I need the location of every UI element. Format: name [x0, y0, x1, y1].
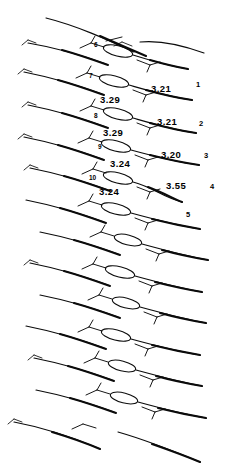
molecule-row: [26, 320, 200, 356]
molecule-index-label: 2: [199, 120, 203, 128]
molecule-index-label: 8: [94, 113, 98, 120]
distance-label: 3.21: [151, 84, 171, 94]
molecule-index-label: 6: [94, 42, 98, 49]
molecule-row: [28, 351, 202, 387]
molecule-row: [24, 257, 202, 293]
distance-label: 3.24: [99, 187, 119, 197]
molecule-stack: [8, 18, 208, 462]
molecule-index-label: 7: [89, 73, 93, 80]
molecule-index-label: 9: [98, 144, 102, 151]
molecule-row: [36, 383, 206, 419]
molecule-row: [40, 288, 206, 324]
molecule-row: [22, 36, 188, 72]
molecule-row: [40, 225, 208, 261]
molecule-index-label: 10: [89, 175, 96, 182]
molecule-row: [46, 18, 204, 56]
molecule-index-label: 3: [204, 152, 208, 160]
distance-label: 3.29: [100, 95, 120, 105]
molecule-index-label: 4: [210, 183, 214, 191]
molecular-packing-figure: 3.21 3.21 3.20 3.55 3.29 3.29 3.24 3.24 …: [0, 0, 225, 475]
distance-label: 3.29: [103, 128, 123, 138]
packing-diagram-svg: [0, 0, 225, 475]
molecule-row: [8, 419, 200, 462]
molecule-index-label: 5: [186, 211, 190, 219]
distance-label: 3.20: [161, 150, 181, 160]
distance-label: 3.21: [157, 117, 177, 127]
distance-label: 3.55: [166, 181, 186, 191]
molecule-index-label: 1: [196, 81, 200, 89]
distance-label: 3.24: [110, 159, 130, 169]
